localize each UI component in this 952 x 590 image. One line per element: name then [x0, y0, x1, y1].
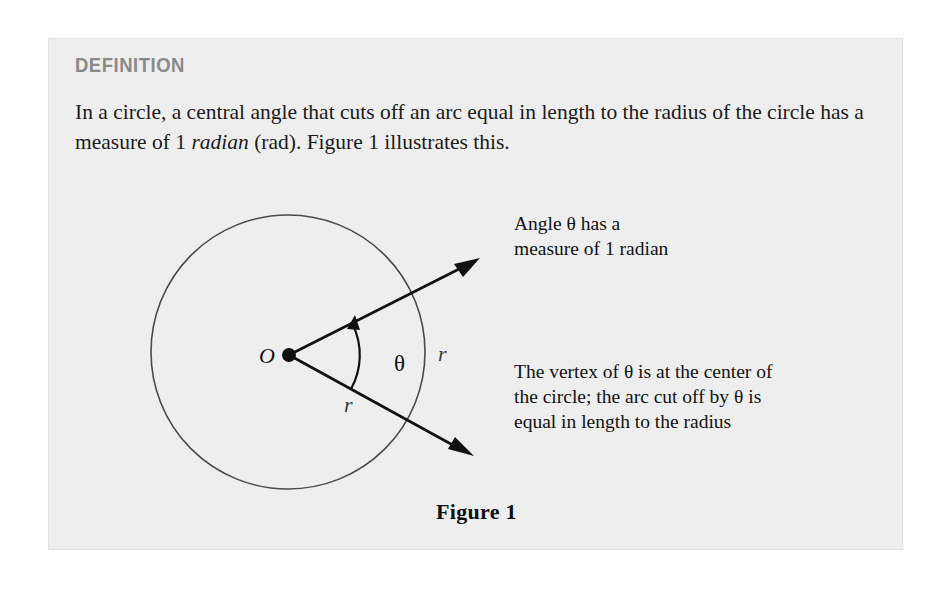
label-angle-theta: θ — [394, 351, 405, 376]
ray-upper-arrowhead — [454, 258, 480, 277]
annotation-angle-line2: measure of 1 radian — [514, 236, 668, 261]
label-center-O: O — [259, 343, 275, 368]
angle-arc-arrowhead — [347, 315, 360, 330]
vertex-dot — [282, 348, 296, 362]
annotation-angle-line1: Angle θ has a — [514, 211, 668, 236]
figure-caption: Figure 1 — [49, 499, 904, 525]
figure-1: O θ r r Angle θ has a measure of 1 radia… — [49, 39, 904, 551]
annotation-vertex-line2: the circle; the arc cut off by θ is — [514, 384, 772, 409]
annotation-angle-measure: Angle θ has a measure of 1 radian — [514, 211, 668, 261]
annotation-vertex-description: The vertex of θ is at the center of the … — [514, 359, 772, 434]
label-radius-inner: r — [344, 392, 353, 417]
page-canvas: DEFINITION In a circle, a central angle … — [0, 0, 952, 590]
ray-lower-arrowhead — [448, 437, 474, 456]
definition-panel: DEFINITION In a circle, a central angle … — [48, 38, 903, 550]
label-radius-right: r — [438, 341, 447, 366]
angle-arc — [351, 325, 360, 389]
circle-radian-diagram: O θ r r — [49, 39, 904, 509]
annotation-vertex-line1: The vertex of θ is at the center of — [514, 359, 772, 384]
annotation-vertex-line3: equal in length to the radius — [514, 409, 772, 434]
ray-lower-line — [289, 355, 460, 449]
